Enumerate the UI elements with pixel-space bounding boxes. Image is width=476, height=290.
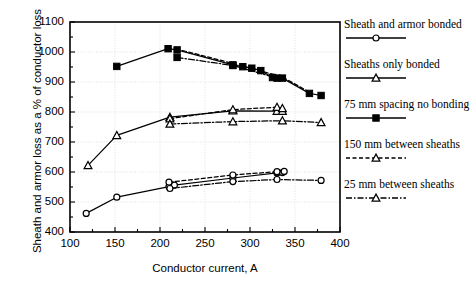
series-4 <box>166 117 325 127</box>
legend-label: 75 mm spacing no bonding <box>344 98 476 111</box>
legend-entry[interactable]: Sheath and armor bonded <box>344 18 476 49</box>
series-3 <box>166 103 286 121</box>
legend-sample-triangle-open <box>344 71 420 85</box>
legend-label: 150 mm between sheaths <box>344 138 476 151</box>
series-2 <box>114 46 325 99</box>
legend-sample-triangle-open <box>344 151 420 165</box>
legend-sample-circle-open <box>344 31 420 45</box>
legend-entry[interactable]: 75 mm spacing no bonding <box>344 98 476 129</box>
series-5 <box>166 168 287 185</box>
legend-label: Sheath and armor bonded <box>344 18 476 31</box>
legend-label: Sheaths only bonded <box>344 58 476 71</box>
series-0 <box>83 170 285 217</box>
legend-label: 25 mm between sheaths <box>344 178 476 191</box>
chart-legend: Sheath and armor bondedSheaths only bond… <box>344 18 476 218</box>
series-6 <box>167 177 324 192</box>
legend-entry[interactable]: Sheaths only bonded <box>344 58 476 89</box>
legend-sample-square-filled <box>344 111 420 125</box>
legend-sample-triangle-open <box>344 191 420 205</box>
legend-entry[interactable]: 25 mm between sheaths <box>344 178 476 209</box>
chart-figure: Sheath and armor loss as a % of conducto… <box>0 0 476 290</box>
legend-entry[interactable]: 150 mm between sheaths <box>344 138 476 169</box>
